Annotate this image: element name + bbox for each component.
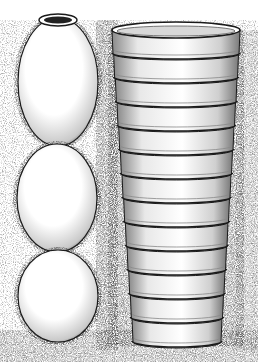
ribbed-well-column	[108, 22, 244, 348]
clay-pot	[14, 14, 102, 149]
illustration	[0, 0, 258, 362]
stacked-clay-pots	[13, 14, 102, 345]
clay-pot	[14, 247, 102, 345]
stacked-pots-and-ribbed-well-drawing	[0, 0, 258, 362]
clay-pot	[13, 141, 101, 255]
